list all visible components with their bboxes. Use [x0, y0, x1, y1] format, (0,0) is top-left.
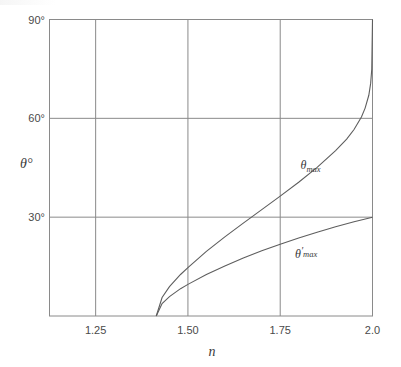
y-axis-tick-labels: 30°60°90° [28, 14, 45, 224]
plot-frame [50, 20, 373, 317]
y-tick-label: 90° [28, 14, 45, 26]
curve-labels: θmaxθ′max [295, 158, 321, 261]
x-tick-label: 1.25 [85, 324, 106, 336]
y-axis-title: θ° [20, 156, 33, 171]
scan-artifact [0, 0, 56, 5]
data-curves [156, 20, 372, 317]
gridlines [50, 20, 373, 317]
x-tick-label: 1.50 [177, 324, 198, 336]
x-tick-label: 1.75 [270, 324, 291, 336]
x-axis-tick-labels: 1.251.501.752.0 [85, 324, 380, 336]
x-tick-label: 2.0 [365, 324, 380, 336]
curve-label-theta-prime-max: θ′max [295, 245, 317, 261]
y-tick-label: 30° [28, 211, 45, 223]
curve-label-theta-max: θmax [301, 158, 321, 174]
curve-theta-max [156, 20, 372, 317]
y-tick-label: 60° [28, 112, 45, 124]
theta-vs-n-plot: 30°60°90° 1.251.501.752.0 θ° n θmaxθ′max [0, 0, 401, 367]
x-axis-title: n [209, 344, 216, 359]
chart-figure: 30°60°90° 1.251.501.752.0 θ° n θmaxθ′max [0, 0, 401, 367]
